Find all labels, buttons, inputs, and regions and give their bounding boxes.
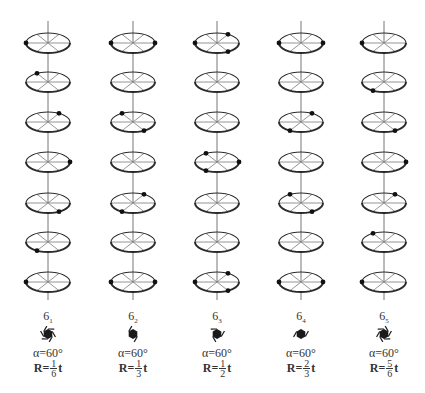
ellipse-layer xyxy=(279,232,323,252)
atom-dot xyxy=(153,41,158,46)
ellipse-layer xyxy=(277,272,326,292)
ellipse-layer xyxy=(111,72,155,92)
atom-dot xyxy=(193,41,198,46)
atom-dot xyxy=(120,111,125,116)
axis-symbol-label: 62 xyxy=(103,310,163,327)
atom-dot xyxy=(120,209,125,214)
atom-dot xyxy=(371,88,376,93)
axis-symbol-label: 64 xyxy=(271,310,331,327)
atom-dot xyxy=(193,280,198,285)
atom-dot xyxy=(360,41,365,46)
atom-dot xyxy=(277,280,282,285)
rotation-angle-label: α=60° xyxy=(103,347,163,359)
ellipse-layer xyxy=(111,192,155,214)
atom-dot xyxy=(142,192,147,197)
atom-dot xyxy=(277,41,282,46)
ellipse-layer xyxy=(26,111,70,132)
translation-label: R= 13 t xyxy=(103,359,163,378)
screw-axis-column-6_1 xyxy=(24,21,73,342)
axis-symbol-label: 61 xyxy=(18,310,78,327)
ellipse-layer xyxy=(362,152,408,172)
translation-label: R= 12 t xyxy=(187,359,247,378)
ellipse-layer xyxy=(195,112,239,132)
atom-dot xyxy=(226,271,231,276)
rotation-angle-label: α=60° xyxy=(271,347,331,359)
ellipse-layer xyxy=(279,111,323,133)
atom-dot xyxy=(288,192,293,197)
ellipse-layer xyxy=(109,272,158,292)
atom-dot xyxy=(204,168,209,173)
column-caption-6_3: 63 α=60° R= 12 t xyxy=(187,310,247,378)
atom-dot xyxy=(360,280,365,285)
rotation-angle-label: α=60° xyxy=(18,347,78,359)
atom-dot xyxy=(237,160,242,165)
column-caption-6_4: 64 α=60° R= 23 t xyxy=(271,310,331,378)
atom-dot xyxy=(153,280,158,285)
translation-label: R= 23 t xyxy=(271,359,331,378)
atom-dot xyxy=(68,160,73,165)
atom-dot xyxy=(142,128,147,133)
rotation-angle-label: α=60° xyxy=(354,347,414,359)
atom-dot xyxy=(226,32,231,37)
ellipse-layer xyxy=(279,152,323,172)
atom-dot xyxy=(35,248,40,253)
ellipse-layer xyxy=(24,33,70,53)
column-caption-6_2: 62 α=60° R= 13 t xyxy=(103,310,163,378)
ellipse-layer xyxy=(111,111,155,133)
atom-dot xyxy=(393,128,398,133)
ellipse-layer xyxy=(26,71,70,92)
ellipse-layer xyxy=(279,72,323,92)
ellipse-layer xyxy=(360,272,406,292)
ellipse-layer xyxy=(24,272,70,292)
translation-label: R= 16 t xyxy=(18,359,78,378)
ellipse-layer xyxy=(111,232,155,252)
ellipse-layer xyxy=(109,33,158,53)
atom-dot xyxy=(226,49,231,54)
ellipse-layer xyxy=(195,151,241,173)
ellipse-layer xyxy=(195,193,239,213)
atom-dot xyxy=(109,41,114,46)
column-caption-6_1: 61 α=60° R= 16 t xyxy=(18,310,78,378)
screw-axis-column-6_3 xyxy=(193,21,242,342)
atom-dot xyxy=(35,71,40,76)
ellipse-layer xyxy=(279,192,323,214)
ellipse-layer xyxy=(26,193,70,214)
atom-dot xyxy=(204,151,209,156)
atom-dot xyxy=(24,41,29,46)
screw-axis-column-6_4 xyxy=(277,21,326,339)
atom-dot xyxy=(226,288,231,293)
ellipse-layer xyxy=(193,32,239,54)
atom-dot xyxy=(321,280,326,285)
ellipse-layer xyxy=(26,152,72,172)
ellipse-layer xyxy=(195,72,239,92)
rotation-angle-label: α=60° xyxy=(187,347,247,359)
ellipse-layer xyxy=(195,232,239,252)
ellipse-layer xyxy=(26,232,70,253)
column-caption-6_5: 65 α=60° R= 56 t xyxy=(354,310,414,378)
ellipse-layer xyxy=(362,112,406,133)
ellipse-layer xyxy=(277,33,326,53)
ellipse-layer xyxy=(193,271,239,293)
screw-axis-column-6_2 xyxy=(109,21,158,342)
atom-dot xyxy=(109,280,114,285)
atom-dot xyxy=(24,280,29,285)
screw-axis-column-6_5 xyxy=(360,21,409,342)
atom-dot xyxy=(321,41,326,46)
atom-dot xyxy=(57,111,62,116)
ellipse-layer xyxy=(362,231,406,252)
axis-symbol-label: 63 xyxy=(187,310,247,327)
atom-dot xyxy=(310,209,315,214)
axis-symbol-label: 65 xyxy=(354,310,414,327)
atom-dot xyxy=(371,231,376,236)
atom-dot xyxy=(393,192,398,197)
ellipse-layer xyxy=(111,152,155,172)
atom-dot xyxy=(57,209,62,214)
ellipse-layer xyxy=(362,72,406,93)
atom-dot xyxy=(310,111,315,116)
atom-dot xyxy=(288,128,293,133)
translation-label: R= 56 t xyxy=(354,359,414,378)
ellipse-layer xyxy=(362,192,406,213)
atom-dot xyxy=(404,160,409,165)
ellipse-layer xyxy=(360,33,406,53)
